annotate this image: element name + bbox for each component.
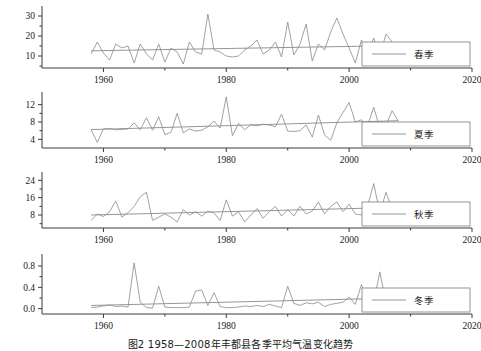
data-series-line [91, 14, 398, 64]
x-tick-label: 1980 [217, 235, 236, 245]
x-tick-label: 2020 [463, 321, 481, 331]
panel-summer: 48121960198020002020夏季 [0, 88, 481, 168]
y-tick-label: 24 [26, 176, 36, 186]
data-series-line [91, 97, 398, 142]
panel-spring: 1020301960198020002020春季 [0, 0, 481, 88]
y-tick-label: 30 [26, 11, 36, 21]
x-tick-label: 2000 [340, 75, 359, 85]
x-tick-label: 2000 [340, 155, 359, 165]
y-tick-label: 0.4 [23, 283, 35, 293]
plot-spring: 1020301960198020002020春季 [0, 0, 481, 88]
y-tick-label: 0.8 [23, 261, 35, 271]
y-tick-label: 0.0 [23, 304, 35, 314]
x-tick-label: 1980 [217, 155, 236, 165]
x-tick-label: 1980 [217, 321, 236, 331]
x-tick-label: 1980 [217, 75, 236, 85]
y-tick-label: 16 [26, 193, 36, 203]
x-tick-label: 2000 [340, 235, 359, 245]
trend-line [91, 298, 398, 305]
y-tick-label: 4 [30, 135, 35, 145]
plot-autumn: 816241960198020002020秋季 [0, 168, 481, 248]
y-tick-label: 8 [30, 117, 35, 127]
x-tick-label: 2020 [463, 75, 481, 85]
x-tick-label: 2000 [340, 321, 359, 331]
x-tick-label: 2020 [463, 235, 481, 245]
x-tick-label: 1960 [94, 75, 113, 85]
x-tick-label: 1960 [94, 235, 113, 245]
legend-label: 冬季 [414, 295, 434, 306]
x-tick-label: 1960 [94, 321, 113, 331]
panel-winter: 0.00.40.81960198020002020冬季 [0, 248, 481, 336]
panel-autumn: 816241960198020002020秋季 [0, 168, 481, 248]
y-tick-label: 12 [26, 100, 36, 110]
plot-winter: 0.00.40.81960198020002020冬季 [0, 248, 481, 336]
y-tick-label: 10 [26, 51, 36, 61]
figure-caption: 图2 1958—2008年丰都县各季平均气温变化趋势 [0, 336, 481, 351]
seasonal-temperature-figure: 1020301960198020002020春季 481219601980200… [0, 0, 481, 351]
x-tick-label: 2020 [463, 155, 481, 165]
y-tick-label: 20 [26, 31, 36, 41]
data-series-line [91, 184, 398, 222]
legend-label: 秋季 [414, 209, 434, 220]
x-tick-label: 1960 [94, 155, 113, 165]
plot-summer: 48121960198020002020夏季 [0, 88, 481, 168]
trend-line [91, 207, 398, 215]
legend-label: 夏季 [414, 129, 434, 140]
trend-line [91, 121, 398, 130]
legend-label: 春季 [414, 49, 434, 60]
y-tick-label: 8 [30, 210, 35, 220]
